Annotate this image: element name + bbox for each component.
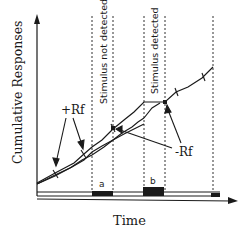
y-axis-arrow-icon [34, 14, 40, 24]
negative-rf-mark [111, 126, 115, 130]
x-axis-label: Time [113, 213, 146, 228]
event-label-a: a [99, 179, 105, 189]
x-axis-arrow-icon [228, 197, 238, 204]
x-axis [37, 197, 238, 204]
arrowhead-icon [53, 158, 59, 166]
negative-rf-label: -Rf [175, 145, 194, 159]
negative-rf-mark [163, 100, 167, 104]
cumulative-response-diagram: Stimulus not detected Stimulus detected … [0, 0, 248, 230]
event-bar-b [143, 187, 164, 196]
negative-rf-arrows [116, 105, 181, 148]
y-axis-label: Cumulative Responses [10, 21, 25, 164]
event-bar-end [211, 193, 220, 197]
response-record [37, 67, 213, 183]
y-axis [34, 14, 40, 196]
region-label-not-detected: Stimulus not detected [98, 0, 109, 104]
region-label-detected: Stimulus detected [149, 7, 160, 94]
event-timeline [37, 187, 220, 197]
arrowhead-icon [78, 140, 84, 149]
arrowhead-icon [116, 126, 122, 133]
event-bar-a [92, 191, 113, 196]
event-label-b: b [150, 176, 156, 186]
cumulative-curve-main [37, 103, 160, 184]
arrowhead-icon [165, 105, 171, 113]
positive-rf-label: +Rf [61, 103, 86, 117]
